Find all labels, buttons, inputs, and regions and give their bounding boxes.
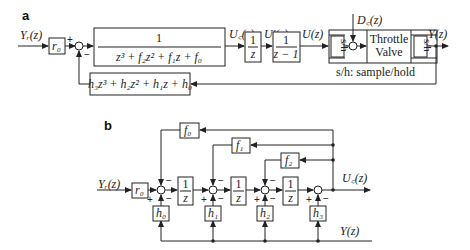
summing-junction-a	[75, 42, 83, 50]
disturbance-label: D꜀(z)	[356, 13, 382, 27]
svg-text:−: −	[166, 193, 172, 204]
svg-text:h₁: h₁	[208, 206, 218, 220]
input-label-yr: Yᵣ(z)	[20, 28, 42, 42]
svg-text:f₀: f₀	[184, 123, 192, 137]
svg-text:+: +	[201, 194, 207, 205]
svg-text:z: z	[250, 47, 256, 61]
svg-text:z: z	[235, 191, 241, 205]
svg-text:h₃: h₃	[313, 206, 323, 220]
r0-label: r₀	[52, 39, 61, 53]
svg-text:1: 1	[288, 177, 294, 191]
svg-text:1: 1	[156, 31, 162, 45]
sample-hold-note: s/h: sample/hold	[336, 65, 415, 79]
svg-text:z: z	[182, 191, 188, 205]
svg-text:+: +	[306, 194, 312, 205]
block-diagrams: a Yᵣ(z) r₀ + − 1 z³ + f₂z² + f₁z + f₀ U꜀…	[0, 0, 470, 250]
svg-text:−: −	[84, 49, 90, 60]
svg-text:z: z	[287, 191, 293, 205]
plant-denominator: z³ + f₂z² + f₁z + f₀	[115, 50, 202, 64]
svg-text:−: −	[270, 193, 276, 204]
svg-text:1: 1	[183, 177, 189, 191]
svg-text:+: +	[147, 194, 153, 205]
svg-text:h₃z³ + h₂z² + h₁z + h₀: h₃z³ + h₂z² + h₁z + h₀	[88, 77, 192, 91]
summing-junction-0	[157, 186, 165, 194]
svg-text:z − 1: z − 1	[273, 47, 299, 61]
svg-text:1: 1	[250, 33, 256, 47]
uc-label-b: U꜀(z)	[342, 171, 367, 185]
throttle-valve-label: Throttle	[370, 32, 409, 46]
disturbance-junction	[349, 42, 357, 50]
input-label-yr-b: Yᵣ(z)	[98, 177, 120, 191]
summing-junction-2	[261, 186, 269, 194]
panel-a: a Yᵣ(z) r₀ + − 1 z³ + f₂z² + f₁z + f₀ U꜀…	[18, 8, 448, 95]
svg-text:f₁: f₁	[236, 138, 244, 152]
svg-text:1: 1	[236, 177, 242, 191]
svg-text:−: −	[218, 175, 224, 186]
svg-text:1: 1	[283, 33, 289, 47]
svg-text:Valve: Valve	[375, 45, 402, 59]
svg-text:+: +	[67, 34, 73, 45]
svg-text:−: −	[166, 175, 172, 186]
u-label: U(z)	[302, 27, 323, 41]
panel-b: b Yᵣ(z) r₀ + − − 1 z + − − 1 z + −	[97, 118, 372, 243]
output-label-y: Y(z)	[428, 27, 447, 41]
summing-junction-1	[209, 186, 217, 194]
y-label-b: Y(z)	[340, 224, 359, 238]
panel-a-label: a	[22, 8, 30, 23]
svg-text:+: +	[254, 194, 260, 205]
svg-text:h₂: h₂	[260, 206, 270, 220]
svg-text:−: −	[218, 193, 224, 204]
svg-text:f₂: f₂	[285, 153, 293, 167]
summing-junction-3	[314, 186, 322, 194]
panel-b-label: b	[104, 118, 112, 133]
svg-text:r₀: r₀	[135, 183, 144, 197]
svg-text:h₀: h₀	[156, 206, 166, 220]
svg-text:−: −	[323, 193, 329, 204]
svg-text:−: −	[270, 175, 276, 186]
